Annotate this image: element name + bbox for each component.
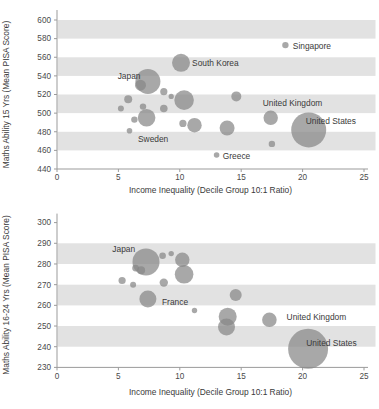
pisa-inequality-figure: 4404604805005205405605806000510152025Swe… (0, 0, 379, 409)
bubble-country (179, 120, 186, 127)
y-axis-title: Maths Ability 15 Yrs (Mean PISA Score) (1, 21, 11, 169)
bubble-country (130, 282, 136, 288)
y-tick-label: 270 (37, 281, 51, 290)
shaded-band (58, 243, 376, 264)
bubble-country (160, 105, 168, 113)
y-tick-label: 580 (37, 34, 51, 43)
x-axis-title: Income Inequality (Decile Group 10:1 Rat… (129, 387, 292, 397)
bubble-country (187, 118, 201, 132)
country-label-south-korea: South Korea (192, 58, 239, 68)
y-tick-label: 480 (37, 128, 51, 137)
country-label-japan: Japan (118, 71, 141, 81)
bubble-country (218, 319, 235, 336)
y-tick-label: 240 (37, 343, 51, 352)
bubble-france (139, 291, 156, 308)
x-tick-label: 15 (237, 372, 247, 381)
shaded-band (58, 132, 376, 151)
bubble-country (138, 109, 156, 127)
bubble-country (140, 103, 146, 109)
y-tick-label: 560 (37, 53, 51, 62)
bubble-country (160, 88, 167, 95)
country-label-sweden: Sweden (138, 134, 169, 144)
shaded-band (58, 95, 376, 114)
country-label-united-kingdom: United Kingdom (263, 98, 323, 108)
bubble-country (160, 278, 168, 286)
bubble-country (124, 95, 132, 103)
country-label-greece: Greece (223, 151, 251, 161)
bubble-united-states (288, 329, 328, 369)
y-tick-label: 500 (37, 109, 51, 118)
bubble-country (159, 252, 166, 259)
bubble-country (118, 106, 124, 112)
y-tick-label: 300 (37, 218, 51, 227)
x-tick-label: 0 (55, 372, 60, 381)
bubble-country (169, 251, 174, 256)
y-tick-label: 230 (37, 363, 51, 372)
bubble-south-korea (172, 54, 190, 72)
bubble-country (169, 94, 174, 99)
chart-maths-15yr: 4404604805005205405605806000510152025Swe… (0, 0, 379, 205)
bubble-country (175, 265, 194, 284)
x-tick-label: 0 (55, 173, 60, 182)
x-tick-label: 25 (359, 372, 369, 381)
country-label-united-states: United States (306, 116, 356, 126)
country-label-france: France (162, 297, 188, 307)
y-tick-label: 290 (37, 239, 51, 248)
x-axis-title: Income Inequality (Decile Group 10:1 Rat… (129, 185, 292, 195)
y-tick-label: 280 (37, 260, 51, 269)
shaded-band (58, 20, 376, 39)
x-tick-label: 10 (175, 372, 185, 381)
bubble-country (192, 308, 197, 313)
y-tick-label: 440 (37, 165, 51, 174)
x-tick-label: 5 (116, 372, 121, 381)
bubble-japan (133, 248, 160, 275)
bubble-country (119, 277, 126, 284)
bubble-sweden (127, 128, 133, 134)
bubble-country (220, 121, 235, 136)
x-tick-label: 25 (359, 173, 369, 182)
y-tick-label: 250 (37, 322, 51, 331)
bubble-country (231, 91, 241, 101)
y-axis-title: Maths Ability 16-24 Yrs (Mean PISA Score… (1, 215, 11, 375)
country-label-japan: Japan (112, 244, 135, 254)
bubble-country (175, 253, 189, 267)
shaded-band (58, 285, 376, 306)
y-tick-label: 540 (37, 72, 51, 81)
country-label-singapore: Singapore (293, 41, 332, 51)
y-tick-label: 600 (37, 16, 51, 25)
chart-maths-16-24yr: 2302402502602702802903000510152025JapanF… (0, 205, 379, 409)
x-tick-label: 20 (298, 372, 308, 381)
bubble-country (174, 90, 194, 110)
bubble-country (131, 116, 137, 122)
y-tick-label: 460 (37, 146, 51, 155)
x-tick-label: 15 (237, 173, 247, 182)
bubble-greece (214, 152, 220, 158)
bubble-united-kingdom (264, 111, 278, 125)
bubble-united-kingdom (262, 313, 277, 328)
x-tick-label: 10 (175, 173, 185, 182)
y-tick-label: 520 (37, 90, 51, 99)
x-tick-label: 5 (116, 173, 121, 182)
country-label-united-states: United States (306, 338, 356, 348)
y-tick-label: 260 (37, 301, 51, 310)
bubble-country (269, 141, 275, 147)
country-label-united-kingdom: United Kingdom (287, 312, 347, 322)
bubble-singapore (282, 42, 288, 48)
bubble-country (230, 289, 242, 301)
x-tick-label: 20 (298, 173, 308, 182)
